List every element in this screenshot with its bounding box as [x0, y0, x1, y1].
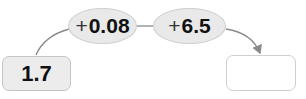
operation-oval-1: + 0.08: [68, 8, 137, 44]
operation-2-sign: +: [168, 14, 180, 38]
connector-start-to-op1: [36, 29, 69, 55]
start-value-box: 1.7: [2, 56, 71, 91]
connector-op2-to-result: [226, 29, 260, 53]
start-value: 1.7: [21, 61, 52, 87]
operation-1-value: 0.08: [89, 14, 130, 38]
operation-1-sign: +: [75, 14, 87, 38]
result-answer-box[interactable]: [226, 55, 296, 91]
operation-2-value: 6.5: [182, 14, 211, 38]
operation-oval-2: + 6.5: [153, 8, 226, 44]
